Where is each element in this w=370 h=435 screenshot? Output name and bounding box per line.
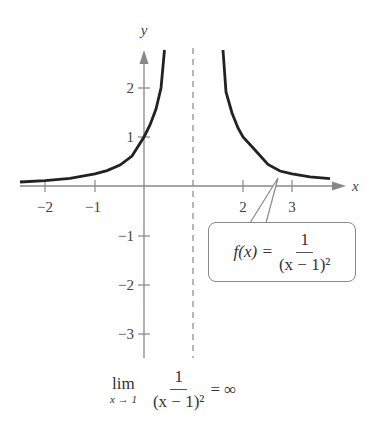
y-tick-label: 1 (127, 129, 135, 145)
x-axis-label: x (351, 178, 359, 194)
function-lhs: f(x) = (234, 242, 273, 262)
function-callout: f(x) = 1 (x − 1)² (208, 222, 356, 282)
limit-operator: lim x → 1 (110, 375, 137, 405)
y-tick-label: −3 (118, 326, 134, 342)
x-tick-label: −1 (85, 199, 101, 215)
y-tick-label: −1 (118, 228, 134, 244)
limit-result: = ∞ (210, 380, 236, 400)
y-tick-label: −2 (118, 277, 134, 293)
y-axis-arrow-icon (140, 50, 149, 64)
y-axis-label: y (139, 22, 148, 38)
fraction-numerator: 1 (296, 230, 313, 253)
callout-pointer (250, 178, 278, 223)
function-fraction: 1 (x − 1)² (279, 230, 331, 275)
x-tick-label: −2 (37, 199, 53, 215)
limit-caption: lim x → 1 1 (x − 1)² = ∞ (110, 367, 236, 412)
function-equation: f(x) = 1 (x − 1)² (234, 230, 331, 275)
limit-fraction: 1 (x − 1)² (153, 367, 205, 412)
x-axis-arrow-icon (332, 182, 346, 191)
x-tick-label: 2 (239, 199, 247, 215)
fraction-denominator: (x − 1)² (279, 253, 331, 275)
x-tick-label: 3 (288, 199, 296, 215)
fraction-numerator: 1 (170, 367, 187, 390)
curve-left-branch (20, 50, 165, 182)
lim-subscript: x → 1 (110, 393, 137, 405)
fraction-denominator: (x − 1)² (153, 390, 205, 412)
lim-word: lim (112, 375, 135, 393)
curve-right-branch (223, 50, 330, 179)
y-tick-label: 2 (127, 80, 135, 96)
